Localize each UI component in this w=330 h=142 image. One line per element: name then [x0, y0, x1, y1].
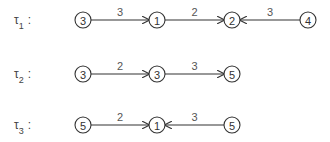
edge-weight: 2 — [117, 111, 123, 123]
task-label: τ3: — [14, 118, 31, 136]
task-row-2: τ2:23335 — [14, 60, 240, 85]
node-value: 2 — [229, 15, 235, 27]
task-label: τ2: — [14, 67, 31, 85]
node-value: 3 — [80, 15, 86, 27]
edge-weight: 3 — [191, 111, 197, 123]
edge-weight: 2 — [117, 60, 123, 72]
edge-weight: 3 — [191, 60, 197, 72]
task-row-3: τ3:23515 — [14, 111, 240, 136]
node-value: 3 — [80, 69, 86, 81]
node-value: 1 — [154, 120, 160, 132]
node-value: 5 — [229, 69, 235, 81]
task-label: τ1: — [14, 13, 31, 31]
node-value: 5 — [229, 120, 235, 132]
node-value: 1 — [154, 15, 160, 27]
node-value: 5 — [80, 120, 86, 132]
node-value: 3 — [154, 69, 160, 81]
task-graph-diagram: τ1:3233124τ2:23335τ3:23515 — [0, 0, 330, 142]
edge-weight: 3 — [267, 6, 273, 18]
edge-weight: 2 — [191, 6, 197, 18]
task-row-1: τ1:3233124 — [14, 6, 316, 31]
edge-weight: 3 — [117, 6, 123, 18]
node-value: 4 — [305, 15, 311, 27]
